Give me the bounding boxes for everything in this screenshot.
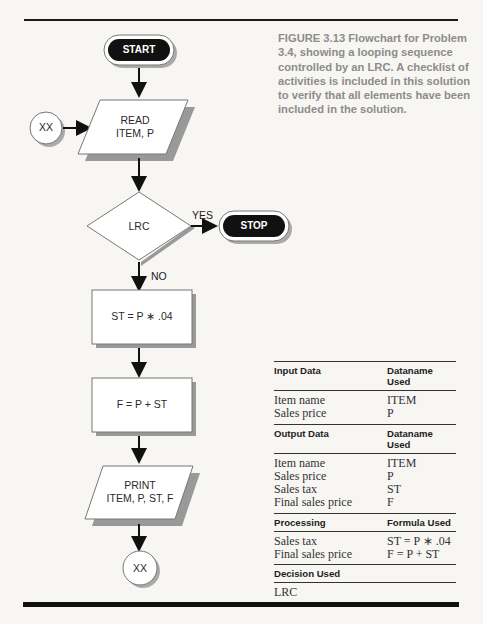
input-data-section: Input Data Dataname Used Item nameITEM S… [274,361,456,424]
header-label: Dataname Used [387,428,456,450]
header-label: Dataname Used [387,365,456,387]
read-label-line2: ITEM, P [90,127,180,140]
table-row: Sales taxST [274,483,456,496]
table-row: Sales priceP [274,407,456,420]
output-data-section: Output Data Dataname Used Item nameITEM … [274,424,456,513]
table-row: Sales priceP [274,470,456,483]
header-label [387,568,456,579]
section-header: Decision Used [274,565,456,583]
decision-section: Decision Used LRC [274,564,456,602]
print-label-line1: PRINT [90,479,190,492]
section-header: Input Data Dataname Used [274,362,456,391]
table-row: Item nameITEM [274,457,456,470]
start-label: START [108,44,170,55]
connector-in-label: XX [30,121,62,134]
header-label: Processing [274,517,326,528]
yes-branch-label: YES [192,209,213,221]
header-label: Decision Used [274,568,340,579]
section-header: Processing Formula Used [274,514,456,532]
checklist-table: Input Data Dataname Used Item nameITEM S… [274,361,456,604]
bottom-rule [23,602,459,607]
table-row: Item nameITEM [274,394,456,407]
header-label: Formula Used [387,517,456,528]
read-label-line1: READ [90,114,180,127]
header-label: Output Data [274,428,329,450]
header-label: Input Data [274,365,321,387]
process2-label: F = P + ST [92,398,192,411]
stop-label: STOP [223,220,285,231]
table-row: Final sales priceF = P + ST [274,548,456,561]
process1-label: ST = P ∗ .04 [92,310,192,323]
processing-section: Processing Formula Used Sales taxST = P … [274,513,456,565]
table-row: LRC [274,586,456,599]
connector-out-label: XX [124,562,156,575]
table-row: Sales taxST = P ∗ .04 [274,535,456,548]
no-branch-label: NO [151,270,167,282]
table-row: Final sales priceF [274,496,456,509]
decision-label: LRC [109,220,169,233]
section-header: Output Data Dataname Used [274,425,456,454]
print-label-line2: ITEM, P, ST, F [85,492,195,505]
